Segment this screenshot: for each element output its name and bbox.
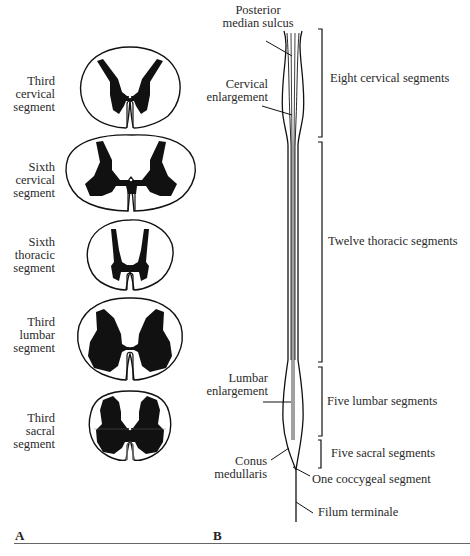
label-five-sacral-segments: Five sacral segments <box>331 447 435 460</box>
bottom-rule <box>14 543 470 544</box>
label-filum-terminale: Filum terminale <box>318 506 398 519</box>
segment-brackets <box>318 29 322 468</box>
label-conus-medullaris: Conus medullaris <box>190 455 267 481</box>
label-posterior-median-sulcus: Posterior median sulcus <box>218 4 298 30</box>
bracket-lumbar <box>318 367 322 436</box>
panel-letter-b: B <box>213 528 222 544</box>
label-lumbar-enlargement: Lumbar enlargement <box>190 372 268 398</box>
bracket-sacral <box>318 440 321 468</box>
bracket-cervical <box>318 29 322 137</box>
bracket-thoracic <box>318 142 322 362</box>
label-twelve-thoracic-segments: Twelve thoracic segments <box>328 235 458 248</box>
label-one-coccygeal-segment: One coccygeal segment <box>312 473 431 486</box>
label-five-lumbar-segments: Five lumbar segments <box>327 395 437 408</box>
label-cervical-enlargement: Cervical enlargement <box>190 78 268 104</box>
panel-letter-a: A <box>15 528 24 544</box>
spinal-cord-outline <box>282 31 304 522</box>
label-eight-cervical-segments: Eight cervical segments <box>330 72 449 85</box>
